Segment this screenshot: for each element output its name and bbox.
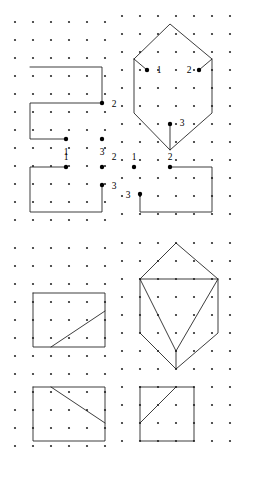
grid-dot [211,242,213,244]
grid-dot [175,15,177,17]
grid-dot [175,260,177,262]
shape-edge [140,387,194,441]
grid-dot [121,440,123,442]
grid-dot [175,159,177,161]
vertex-label-3: 3 [100,147,105,157]
grid-dot [139,105,141,107]
grid-dot [32,57,34,59]
grid-dot [104,183,106,185]
grid-dot [211,314,213,316]
grid-dot [139,15,141,17]
grid-dot [86,219,88,221]
grid-dot [104,283,106,285]
grid-dot [175,141,177,143]
dot-grid-figure-panel: 213123123123 [0,0,259,477]
vertex-label-2: 2 [112,99,117,109]
grid-dot [14,219,16,221]
mid-right-partial-square [140,167,212,212]
grid-dot [139,141,141,143]
grid-dot [139,177,141,179]
vertex-marker-1 [64,165,68,169]
grid-dot [68,201,70,203]
grid-dot [86,147,88,149]
grid-dot [86,445,88,447]
grid-dot [229,242,231,244]
grid-dot [50,445,52,447]
grid-dot [50,409,52,411]
top-right-grid [121,15,231,215]
grid-dot [157,15,159,17]
grid-dot [68,445,70,447]
grid-dot [121,177,123,179]
grid-dot [68,373,70,375]
grid-dot [229,314,231,316]
grid-dot [175,404,177,406]
grid-dot [50,219,52,221]
vertex-marker-2 [100,165,104,169]
lower-bottom-right-square-with-diagonal [140,387,194,441]
grid-dot [193,195,195,197]
grid-dot [50,319,52,321]
grid-dot [104,265,106,267]
grid-dot [50,301,52,303]
grid-dot [175,177,177,179]
grid-dot [121,260,123,262]
grid-dot [86,165,88,167]
shape-edge [30,167,102,212]
grid-dot [175,123,177,125]
shape-edge [51,387,105,423]
shape-edge [199,59,212,70]
shape-outline-layer [30,24,218,441]
grid-dot [14,147,16,149]
vertex-label-2: 2 [187,65,192,75]
grid-dot [175,69,177,71]
grid-dot [104,39,106,41]
grid-dot [211,350,213,352]
grid-dot [229,278,231,280]
grid-dot [86,373,88,375]
grid-dot [32,265,34,267]
grid-dot [121,195,123,197]
grid-dot [193,296,195,298]
vertex-label-1: 1 [64,152,69,162]
lower-top-right-cube-with-inner-triangle [140,243,218,369]
grid-dot [121,242,123,244]
vertex-label-1: 1 [132,152,137,162]
grid-dot [68,75,70,77]
vertex-label-3: 3 [112,181,117,191]
grid-dot [229,87,231,89]
grid-dot [157,51,159,53]
grid-dot [14,265,16,267]
grid-dot [104,219,106,221]
grid-dot [50,39,52,41]
grid-dot [121,33,123,35]
grid-dot [157,159,159,161]
top-left-grid [14,21,106,221]
grid-dot [157,123,159,125]
grid-dot [193,141,195,143]
grid-dot [14,445,16,447]
grid-dot [86,247,88,249]
grid-dot [139,368,141,370]
grid-dot [211,440,213,442]
grid-dot [104,247,106,249]
grid-dot [14,427,16,429]
grid-dot [68,283,70,285]
grid-dot [50,427,52,429]
grid-dot [86,319,88,321]
grid-dot [229,368,231,370]
grid-dot [229,213,231,215]
grid-dot [121,404,123,406]
grid-dot [211,141,213,143]
grid-dot [14,165,16,167]
grid-dot [175,422,177,424]
grid-dot [121,332,123,334]
grid-dot [14,183,16,185]
grid-dot [68,219,70,221]
vertex-label-2: 2 [168,152,173,162]
grid-dot [32,283,34,285]
grid-dot [32,219,34,221]
grid-dot [229,123,231,125]
grid-dot [68,129,70,131]
grid-dot [68,337,70,339]
